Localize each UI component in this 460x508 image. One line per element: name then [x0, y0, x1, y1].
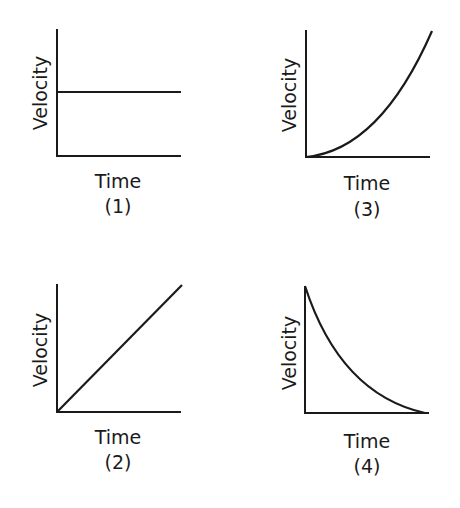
- graph-4-y-axis-label: Velocity: [278, 303, 300, 403]
- graph-3-y-axis-label: Velocity: [278, 45, 300, 145]
- graph-1-number-label: (1): [58, 195, 178, 217]
- graph-2-x-axis-label: Time: [58, 426, 178, 448]
- graph-1-x-axis-label: Time: [58, 170, 178, 192]
- graph-panel-1: Velocity Time (1): [0, 0, 230, 254]
- graph-panel-2: Velocity Time (2): [0, 254, 230, 508]
- graph-4-number-label: (4): [307, 455, 427, 477]
- graph-panel-3: Velocity Time (3): [230, 0, 460, 254]
- graph-panel-4: Velocity Time (4): [230, 254, 460, 508]
- graph-3-x-axis-label: Time: [307, 172, 427, 194]
- graph-4-x-axis-label: Time: [307, 430, 427, 452]
- graph-2-y-axis-label: Velocity: [29, 300, 51, 400]
- graph-1-y-axis-label: Velocity: [29, 43, 51, 143]
- graph-2-number-label: (2): [58, 451, 178, 473]
- graph-3-number-label: (3): [307, 198, 427, 220]
